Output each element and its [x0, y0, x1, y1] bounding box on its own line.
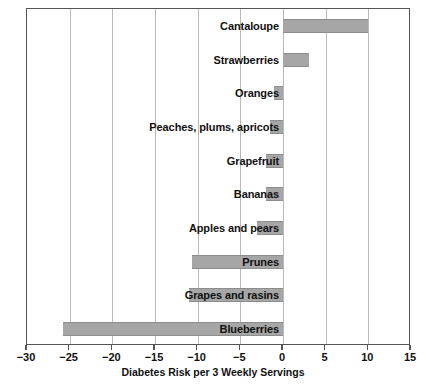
x-tick-label--25: −25 [59, 351, 78, 363]
bar-category-label: Blueberries [220, 323, 279, 336]
bar-row: Prunes [27, 245, 409, 279]
x-tick-mark--10 [196, 345, 197, 350]
x-tick-mark--5 [239, 345, 240, 350]
x-tick-mark--15 [153, 345, 154, 350]
bar-row: Grapes and rasins [27, 279, 409, 313]
x-tick-label--20: −20 [102, 351, 121, 363]
bar-row: Bananas [27, 178, 409, 212]
plot-area: CantaloupeStrawberriesOrangesPeaches, pl… [26, 8, 410, 345]
bar-category-label: Grapefruit [227, 154, 279, 167]
diabetes-risk-bar-chart: CantaloupeStrawberriesOrangesPeaches, pl… [0, 0, 426, 391]
bar-row: Strawberries [27, 43, 409, 77]
x-tick-mark--25 [68, 345, 69, 350]
x-tick-mark-15 [409, 345, 410, 350]
bar-row: Apples and pears [27, 211, 409, 245]
x-tick-label--10: −10 [187, 351, 206, 363]
bar-category-label: Strawberries [214, 53, 279, 66]
bar-category-label: Cantaloupe [220, 19, 279, 32]
bar-row: Cantaloupe [27, 9, 409, 43]
bar-row: Grapefruit [27, 144, 409, 178]
x-tick-label-0: 0 [279, 351, 285, 363]
bar-row: Peaches, plums, apricots [27, 110, 409, 144]
x-tick-mark-0 [281, 345, 282, 350]
x-tick-mark-10 [367, 345, 368, 350]
bar-category-label: Apples and pears [189, 222, 279, 235]
x-axis-ticks: −30−25−20−15−10−5051015 [0, 345, 426, 367]
x-tick-label--30: −30 [17, 351, 36, 363]
x-tick-label--15: −15 [145, 351, 164, 363]
bars-layer: CantaloupeStrawberriesOrangesPeaches, pl… [27, 9, 409, 344]
bar-row: Blueberries [27, 312, 409, 346]
bar-strawberries [283, 53, 309, 67]
bar-cantaloupe [283, 19, 368, 33]
x-tick-label--5: −5 [233, 351, 246, 363]
x-tick-mark--30 [25, 345, 26, 350]
bar-row: Oranges [27, 76, 409, 110]
x-tick-mark--20 [111, 345, 112, 350]
bar-category-label: Oranges [235, 87, 279, 100]
x-tick-label-10: 10 [361, 351, 373, 363]
bar-category-label: Grapes and rasins [185, 289, 279, 302]
bar-category-label: Bananas [234, 188, 279, 201]
x-tick-label-15: 15 [404, 351, 416, 363]
bar-category-label: Peaches, plums, apricots [149, 120, 279, 133]
x-tick-label-5: 5 [322, 351, 328, 363]
bar-category-label: Prunes [242, 255, 279, 268]
x-tick-mark-5 [324, 345, 325, 350]
x-axis-title: Diabetes Risk per 3 Weekly Servings [0, 366, 426, 378]
